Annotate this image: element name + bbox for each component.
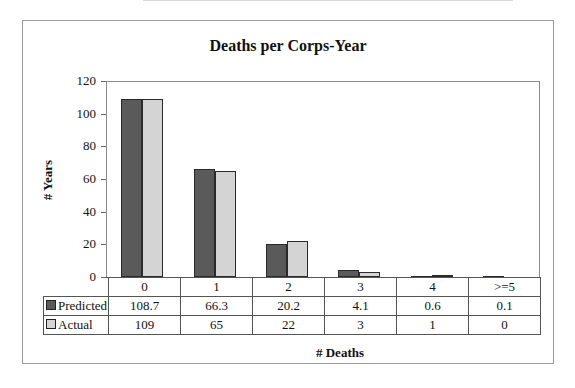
table-cell: 4.1 xyxy=(325,297,397,316)
table-cell: 108.7 xyxy=(109,297,181,316)
category-label: 4 xyxy=(397,278,469,297)
category-label: >=5 xyxy=(469,278,541,297)
table-cell: 0 xyxy=(469,316,541,335)
bar-predicted-1 xyxy=(194,169,215,277)
y-tick-label: 40 xyxy=(60,204,96,220)
legend-swatch-icon xyxy=(46,319,56,329)
data-table-header-row: 0 1 2 3 4 >=5 xyxy=(44,278,541,297)
y-tick-label: 20 xyxy=(60,236,96,252)
series-name: Predicted xyxy=(58,298,107,313)
bar-actual-2 xyxy=(287,241,308,277)
legend-swatch-icon xyxy=(46,300,56,310)
table-cell: 0.1 xyxy=(469,297,541,316)
category-label: 1 xyxy=(181,278,253,297)
series-name: Actual xyxy=(58,317,93,332)
legend-entry-predicted: Predicted xyxy=(44,297,109,316)
bar-actual-1 xyxy=(215,171,236,277)
bar-predicted-0 xyxy=(121,99,142,277)
y-tick-mark xyxy=(101,212,106,213)
table-cell: 22 xyxy=(253,316,325,335)
data-table-row-predicted: Predicted 108.7 66.3 20.2 4.1 0.6 0.1 xyxy=(44,297,541,316)
y-tick-label: 60 xyxy=(60,171,96,187)
table-cell: 65 xyxy=(181,316,253,335)
x-axis-label: # Deaths xyxy=(300,345,380,361)
y-tick-label: 120 xyxy=(60,73,96,89)
plot-area xyxy=(106,81,540,277)
bar-predicted-3 xyxy=(338,270,359,277)
table-cell: 66.3 xyxy=(181,297,253,316)
table-cell: 3 xyxy=(325,316,397,335)
y-tick-mark xyxy=(101,146,106,147)
y-tick-mark xyxy=(101,114,106,115)
bar-predicted-2 xyxy=(266,244,287,277)
y-tick-label: 80 xyxy=(60,138,96,154)
y-tick-mark xyxy=(101,244,106,245)
category-label: 2 xyxy=(253,278,325,297)
data-table-corner xyxy=(44,278,109,297)
chart-title: Deaths per Corps-Year xyxy=(22,37,554,55)
table-cell: 109 xyxy=(109,316,181,335)
category-label: 3 xyxy=(325,278,397,297)
table-cell: 0.6 xyxy=(397,297,469,316)
bar-actual-0 xyxy=(142,99,163,277)
category-label: 0 xyxy=(109,278,181,297)
table-cell: 1 xyxy=(397,316,469,335)
table-cell: 20.2 xyxy=(253,297,325,316)
legend-entry-actual: Actual xyxy=(44,316,109,335)
data-table-row-actual: Actual 109 65 22 3 1 0 xyxy=(44,316,541,335)
data-table: 0 1 2 3 4 >=5 Predicted 108.7 66.3 20.2 … xyxy=(43,277,541,335)
y-axis-label: # Years xyxy=(40,150,56,210)
y-tick-mark xyxy=(101,81,106,82)
page-top-rule xyxy=(143,0,513,1)
y-tick-mark xyxy=(101,179,106,180)
y-tick-label: 100 xyxy=(60,106,96,122)
